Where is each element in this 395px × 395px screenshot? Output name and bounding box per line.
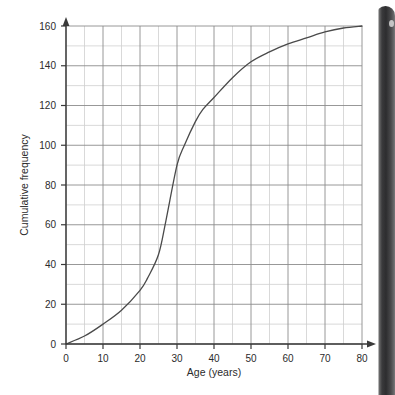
y-tick-label: 40 bbox=[45, 259, 57, 270]
y-axis-ticks bbox=[61, 26, 66, 344]
y-tick-label: 0 bbox=[50, 339, 56, 350]
y-tick-label: 160 bbox=[39, 21, 56, 32]
x-tick-label: 80 bbox=[356, 353, 368, 364]
y-tick-label: 100 bbox=[39, 140, 56, 151]
x-tick-label: 70 bbox=[319, 353, 331, 364]
y-tick-label: 60 bbox=[45, 219, 57, 230]
phone-bezel bbox=[376, 6, 395, 395]
y-tick-label: 120 bbox=[39, 100, 56, 111]
y-tick-label: 140 bbox=[39, 60, 56, 71]
y-axis-arrow bbox=[63, 17, 70, 26]
x-tick-label: 60 bbox=[282, 353, 294, 364]
y-axis-title: Cumulative frequency bbox=[18, 133, 30, 235]
x-axis-ticks bbox=[66, 344, 362, 349]
x-axis-title: Age (years) bbox=[187, 366, 241, 378]
chart-svg: 01020304050607080 020406080100120140160 … bbox=[0, 0, 378, 395]
cumulative-frequency-chart: 01020304050607080 020406080100120140160 … bbox=[0, 0, 378, 395]
x-axis-arrow bbox=[367, 341, 376, 348]
x-tick-label: 40 bbox=[208, 353, 220, 364]
x-tick-label: 10 bbox=[97, 353, 109, 364]
x-axis-tick-labels: 01020304050607080 bbox=[63, 353, 368, 364]
bezel-camera-dot bbox=[389, 20, 394, 27]
y-tick-label: 20 bbox=[45, 299, 57, 310]
x-tick-label: 50 bbox=[245, 353, 257, 364]
y-tick-label: 80 bbox=[45, 180, 57, 191]
x-tick-label: 0 bbox=[63, 353, 69, 364]
page-root: 01020304050607080 020406080100120140160 … bbox=[0, 0, 395, 395]
x-tick-label: 20 bbox=[134, 353, 146, 364]
x-tick-label: 30 bbox=[171, 353, 183, 364]
y-axis-tick-labels: 020406080100120140160 bbox=[39, 21, 56, 350]
